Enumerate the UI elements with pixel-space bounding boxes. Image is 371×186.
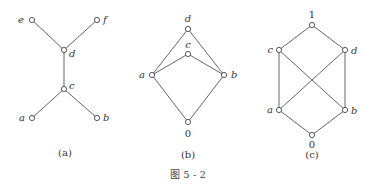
node-a-f <box>94 17 99 22</box>
node-b-a <box>149 72 154 77</box>
figure-caption: 图 5 - 2 <box>170 169 206 180</box>
node-label-c-1: 1 <box>309 9 315 20</box>
node-label-a-f: f <box>102 14 109 25</box>
node-b-d <box>185 26 190 31</box>
edge-b-b-d <box>188 29 224 75</box>
node-c-1 <box>309 22 314 27</box>
node-a-e <box>29 17 34 22</box>
hasse-diagrams: efdcabdcab01cdab0 (a) (b) (c) 图 5 - 2 <box>0 0 371 186</box>
node-a-a <box>29 115 34 120</box>
node-label-b-c: c <box>185 39 191 50</box>
edge-c-b-0 <box>312 110 345 135</box>
node-label-c-a: a <box>267 104 273 115</box>
edge-a-c-a <box>32 89 64 118</box>
edge-b-a-0 <box>152 75 188 122</box>
edge-c-1-c <box>279 25 312 50</box>
edge-b-a-c <box>152 54 188 75</box>
edge-c-a-0 <box>279 110 312 135</box>
node-label-c-d: d <box>351 45 357 56</box>
node-label-b-b: b <box>231 69 237 80</box>
diagram-a-label: (a) <box>58 147 72 158</box>
node-c-0 <box>309 132 314 137</box>
node-b-c <box>185 51 190 56</box>
node-label-a-a: a <box>19 112 25 123</box>
node-b-0 <box>185 119 190 124</box>
node-label-c-b: b <box>351 105 357 116</box>
edge-a-e-d <box>32 20 64 50</box>
edge-a-c-b <box>64 89 97 118</box>
node-a-d <box>61 47 66 52</box>
node-a-b <box>94 115 99 120</box>
node-c-d <box>342 47 347 52</box>
edge-b-b-c <box>188 54 224 75</box>
diagram-b-label: (b) <box>181 149 195 160</box>
edge-b-a-d <box>152 29 188 75</box>
edges-layer <box>32 20 345 135</box>
nodes-layer <box>29 17 347 137</box>
node-c-b <box>342 107 347 112</box>
node-b-b <box>221 72 226 77</box>
edge-c-1-d <box>312 25 345 50</box>
node-label-a-b: b <box>103 112 109 123</box>
figure-5-2: efdcabdcab01cdab0 (a) (b) (c) 图 5 - 2 <box>0 0 371 186</box>
diagram-c-label: (c) <box>305 149 319 160</box>
node-label-b-a: a <box>139 69 145 80</box>
node-a-c <box>61 86 66 91</box>
node-label-a-e: e <box>18 14 24 25</box>
node-c-a <box>276 107 281 112</box>
node-label-b-0: 0 <box>185 128 191 139</box>
node-label-b-d: d <box>185 13 191 24</box>
node-label-a-d: d <box>69 48 75 59</box>
edge-b-b-0 <box>188 75 224 122</box>
node-label-a-c: c <box>69 80 75 91</box>
node-label-c-c: c <box>267 44 273 55</box>
node-c-c <box>276 47 281 52</box>
edge-a-f-d <box>64 20 97 50</box>
